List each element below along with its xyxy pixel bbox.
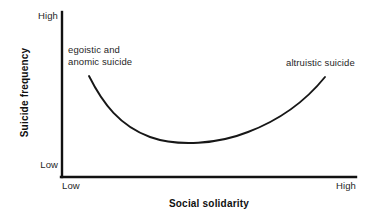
right-curve-annotation: altruistic suicide — [286, 57, 355, 69]
y-axis-tick-high: High — [26, 10, 58, 22]
left-annotation-line-2: anomic suicide — [68, 56, 132, 68]
left-annotation-line-1: egoistic and — [68, 44, 132, 56]
suicide-rate-curve — [89, 76, 325, 143]
x-axis-tick-high: High — [300, 180, 356, 192]
x-axis-tick-low: Low — [62, 180, 80, 192]
y-axis-title: Suicide frequency — [19, 28, 30, 158]
right-annotation-line-1: altruistic suicide — [286, 57, 355, 68]
x-axis-title: Social solidarity — [62, 198, 356, 209]
left-curve-annotation: egoistic and anomic suicide — [68, 44, 132, 67]
suicide-solidarity-chart: Suicide frequency Social solidarity High… — [0, 0, 378, 217]
y-axis-tick-low: Low — [26, 159, 58, 171]
